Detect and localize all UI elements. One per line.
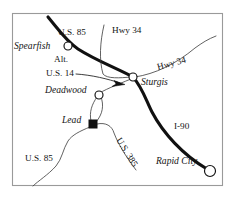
- city-label-rapid-city: Rapid City: [155, 155, 198, 166]
- city-label-sturgis: Sturgis: [141, 76, 168, 87]
- city-marker-spearfish: [64, 42, 72, 50]
- route-label-us-14: U.S. 14: [46, 68, 74, 78]
- city-marker-sturgis: [129, 73, 137, 81]
- route-label-hwy-34-north: Hwy 34: [112, 25, 142, 35]
- city-label-spearfish: Spearfish: [14, 40, 50, 51]
- route-label-us-85-south: U.S. 85: [25, 153, 53, 163]
- map-canvas: Spearfish Deadwood Lead Sturgis Rapid Ci…: [0, 0, 235, 200]
- city-marker-rapid-city: [205, 166, 216, 177]
- route-label-i-90: I-90: [174, 121, 190, 131]
- city-label-lead: Lead: [61, 114, 81, 125]
- city-label-deadwood: Deadwood: [44, 84, 87, 95]
- city-marker-deadwood: [95, 91, 103, 99]
- route-label-alt: Alt.: [54, 54, 68, 64]
- route-label-us-85-north: U.S. 85: [58, 27, 86, 37]
- city-marker-lead: [89, 120, 97, 128]
- map-figure: Spearfish Deadwood Lead Sturgis Rapid Ci…: [0, 0, 235, 200]
